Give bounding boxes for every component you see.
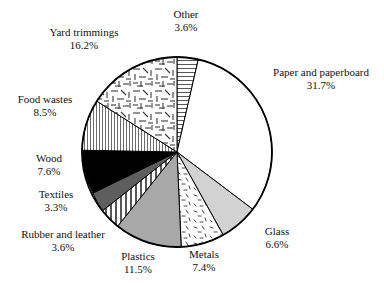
- pie-label-plastics-name: Plastics: [106, 250, 170, 263]
- pie-label-wood: Wood 7.6%: [13, 152, 85, 177]
- pie-label-paper-and-paperboard-name: Paper and paperboard: [258, 66, 384, 79]
- pie-label-food-wastes: Food wastes 8.5%: [1, 93, 89, 118]
- pie-label-yard-trimmings-value: 16.2%: [29, 39, 139, 52]
- pie-label-paper-and-paperboard: Paper and paperboard 31.7%: [258, 66, 384, 91]
- pie-label-other-value: 3.6%: [153, 21, 219, 34]
- pie-label-textiles: Textiles 3.3%: [18, 188, 94, 213]
- pie-label-glass-value: 6.6%: [250, 238, 304, 251]
- pie-label-wood-value: 7.6%: [13, 165, 85, 178]
- pie-label-metals-value: 7.4%: [175, 261, 233, 274]
- pie-label-plastics: Plastics 11.5%: [106, 250, 170, 275]
- pie-label-paper-and-paperboard-value: 31.7%: [258, 79, 384, 92]
- pie-label-wood-name: Wood: [13, 152, 85, 165]
- pie-label-metals-name: Metals: [175, 248, 233, 261]
- pie-label-other-name: Other: [153, 8, 219, 21]
- pie-label-yard-trimmings: Yard trimmings 16.2%: [29, 26, 139, 51]
- pie-label-glass-name: Glass: [250, 225, 304, 238]
- pie-label-yard-trimmings-name: Yard trimmings: [29, 26, 139, 39]
- pie-label-food-wastes-name: Food wastes: [1, 93, 89, 106]
- pie-slices: [82, 57, 272, 247]
- pie-label-textiles-name: Textiles: [18, 188, 94, 201]
- pie-label-plastics-value: 11.5%: [106, 263, 170, 276]
- pie-label-metals: Metals 7.4%: [175, 248, 233, 273]
- pie-label-rubber-and-leather-name: Rubber and leather: [1, 228, 125, 241]
- pie-label-glass: Glass 6.6%: [250, 225, 304, 250]
- pie-label-textiles-value: 3.3%: [18, 201, 94, 214]
- pie-label-other: Other 3.6%: [153, 8, 219, 33]
- pie-chart: Other 3.6% Yard trimmings 16.2% Paper an…: [0, 0, 384, 285]
- pie-label-food-wastes-value: 8.5%: [1, 106, 89, 119]
